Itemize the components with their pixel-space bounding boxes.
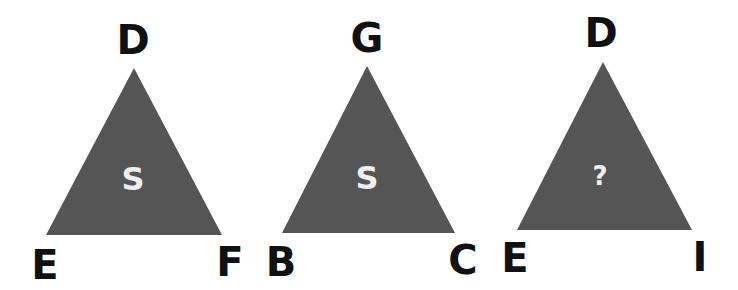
triangle-puzzle: D E F S G B C S D E I ? <box>0 0 738 290</box>
triangle-1-shape <box>46 68 222 235</box>
triangle-3: D E I ? <box>501 10 707 281</box>
triangle-2: G B C S <box>266 15 478 285</box>
triangle-2-top-letter: G <box>351 15 384 61</box>
triangle-2-center-letter: S <box>355 159 378 197</box>
triangle-3-bottom-left-letter: E <box>501 235 528 281</box>
triangle-3-shape <box>517 62 692 230</box>
triangle-3-top-letter: D <box>584 10 617 56</box>
triangle-1: D E F S <box>31 17 243 288</box>
triangle-2-shape <box>282 66 455 233</box>
triangle-3-bottom-right-letter: I <box>693 234 708 280</box>
triangle-2-bottom-right-letter: C <box>448 237 477 283</box>
triangle-1-bottom-left-letter: E <box>31 242 58 288</box>
triangle-1-top-letter: D <box>116 17 149 63</box>
triangle-1-bottom-right-letter: F <box>216 239 243 285</box>
triangle-2-bottom-left-letter: B <box>266 239 297 285</box>
triangle-1-center-letter: S <box>121 160 144 198</box>
question-mark: ? <box>592 161 607 191</box>
